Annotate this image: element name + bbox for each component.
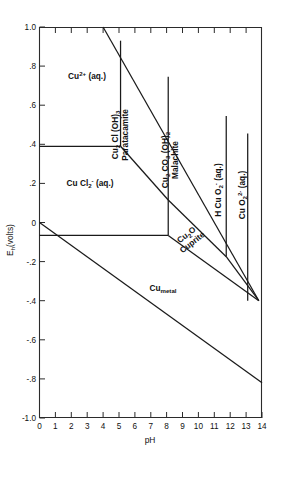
- field-cumetal-formula: Cu: [150, 283, 161, 293]
- y-tick-label: .4: [29, 140, 36, 149]
- field-label-cucl2minus: Cu Cl2- (aq.): [67, 177, 114, 189]
- field-hcuo2-formula: H Cu O: [213, 188, 223, 217]
- svg-text:Cu Cl2- (aq.): Cu Cl2- (aq.): [67, 177, 114, 189]
- svg-text:Cu O22- (aq.): Cu O22- (aq.): [236, 171, 248, 220]
- x-tick-label: 9: [180, 422, 185, 431]
- field-cumetal-sub: metal: [161, 287, 177, 294]
- field-label-cu2plus: Cu2+ (aq.): [68, 70, 106, 81]
- svg-text:Cu2+ (aq.): Cu2+ (aq.): [68, 70, 106, 81]
- x-tick-label: 3: [85, 422, 90, 431]
- y-axis-title-unit: (volts): [5, 224, 15, 247]
- x-tick-label: 1: [53, 422, 58, 431]
- phase-boundary: [226, 257, 259, 301]
- field-label-hcuo2minus: H Cu O2- (aq.): [212, 163, 224, 217]
- y-tick-label: -.8: [26, 375, 36, 384]
- x-tick-label: 14: [257, 422, 267, 431]
- x-tick-label: 8: [164, 422, 169, 431]
- field-cuo2-state: (aq.): [237, 171, 247, 191]
- y-axis-tick-labels: 1.0 .8 .6 .4 .2 0 -.2 -.4 -.6 -.8 -1.0: [22, 23, 37, 423]
- y-tick-label: .8: [29, 62, 36, 71]
- eh-ph-chart-svg: 1.0 .8 .6 .4 .2 0 -.2 -.4 -.6 -.8 -1.0 E…: [0, 0, 284, 482]
- field-para-f3: Cl (OH): [110, 114, 120, 145]
- y-tick-label: -.4: [26, 297, 36, 306]
- y-tick-label: 0: [31, 219, 36, 228]
- field-cu2plus-state: (aq.): [86, 71, 106, 81]
- x-tick-label: 4: [101, 422, 106, 431]
- field-cuo2-formula: Cu O: [237, 199, 247, 219]
- field-cucl2-state: (aq.): [94, 178, 114, 188]
- x-tick-label: 5: [117, 422, 122, 431]
- svg-text:Cumetal: Cumetal: [150, 283, 177, 294]
- x-axis-tick-labels: 0 1 2 3 4 5 6 7 8 9 10 11 12 13 14: [37, 422, 267, 431]
- field-label-paratacamite: Cu2 Cl (OH)3 Paratacamite: [110, 109, 130, 161]
- svg-text:H Cu O2- (aq.): H Cu O2- (aq.): [212, 163, 224, 217]
- x-tick-label: 7: [149, 422, 154, 431]
- field-label-cuprite: Cu2O Cuprite: [172, 222, 207, 256]
- field-label-cuo22minus: Cu O22- (aq.): [236, 171, 248, 220]
- x-axis-title: pH: [145, 435, 156, 445]
- field-mal-f3: CO: [160, 158, 170, 173]
- field-label-cu-metal: Cumetal: [150, 283, 177, 294]
- field-label-malachite: Cu2 CO3 (OH)2 Malachite: [160, 131, 180, 188]
- y-axis-title: Eh(volts): [5, 224, 16, 256]
- y-tick-label: 1.0: [25, 23, 37, 32]
- x-tick-label: 12: [226, 422, 236, 431]
- pourbaix-diagram-figure: 1.0 .8 .6 .4 .2 0 -.2 -.4 -.6 -.8 -1.0 E…: [0, 0, 284, 482]
- field-mal-mineral: Malachite: [170, 141, 180, 179]
- field-hcuo2-state: (aq.): [213, 163, 223, 183]
- phase-boundary: [103, 27, 259, 301]
- y-tick-label: .6: [29, 101, 36, 110]
- y-tick-label: -.6: [26, 336, 36, 345]
- x-tick-label: 2: [69, 422, 74, 431]
- field-para-f1: Cu: [110, 148, 120, 159]
- x-tick-label: 0: [37, 422, 42, 431]
- y-tick-label: -1.0: [22, 414, 37, 423]
- field-mal-f1: Cu: [160, 177, 170, 188]
- field-mal-f5: (OH): [160, 135, 170, 156]
- svg-text:Eh(volts): Eh(volts): [5, 224, 16, 256]
- y-tick-label: -.2: [26, 258, 36, 267]
- field-cu2plus-formula: Cu: [68, 71, 79, 81]
- field-para-mineral: Paratacamite: [120, 109, 130, 161]
- x-tick-label: 13: [242, 422, 252, 431]
- x-tick-label: 11: [210, 422, 219, 431]
- x-tick-label: 6: [133, 422, 138, 431]
- y-tick-label: .2: [29, 179, 36, 188]
- x-tick-label: 10: [194, 422, 204, 431]
- field-cucl2-formula: Cu Cl: [67, 178, 89, 188]
